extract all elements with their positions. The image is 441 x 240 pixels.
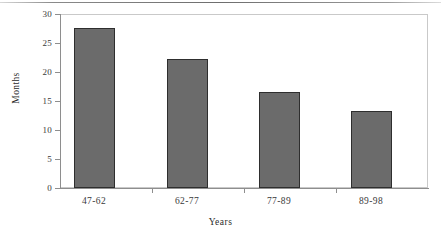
- bar-89-98: [351, 111, 392, 188]
- bar-77-89: [259, 92, 300, 188]
- y-axis-tick: [55, 43, 61, 44]
- x-axis-label-0: 47-62: [54, 196, 134, 207]
- y-axis-tick-label: 0: [12, 184, 52, 193]
- bar-47-62: [74, 28, 115, 188]
- y-axis-tick-label: 5: [12, 155, 52, 164]
- x-axis-label-1: 62-77: [147, 196, 227, 207]
- y-axis-tick: [55, 14, 61, 15]
- y-axis-tick: [55, 188, 61, 189]
- y-axis-tick-label: 30: [12, 10, 52, 19]
- y-axis-tick: [55, 72, 61, 73]
- y-axis-tick-label: 25: [12, 39, 52, 48]
- bar-chart-figure: 0 5 10 15 20 25 30 47-62 62-77 77-89 89-…: [0, 0, 441, 240]
- y-axis-tick: [55, 101, 61, 102]
- x-axis-title: Years: [0, 217, 441, 228]
- y-axis-tick: [55, 159, 61, 160]
- y-axis-tick: [55, 130, 61, 131]
- bar-62-77: [167, 59, 208, 188]
- x-axis-label-3: 89-98: [331, 196, 411, 207]
- x-axis-tick: [336, 188, 337, 193]
- y-axis-tick-label: 10: [12, 126, 52, 135]
- x-axis-label-2: 77-89: [239, 196, 319, 207]
- y-axis-title: Months: [11, 58, 21, 118]
- x-axis-tick: [152, 188, 153, 193]
- x-axis-tick: [244, 188, 245, 193]
